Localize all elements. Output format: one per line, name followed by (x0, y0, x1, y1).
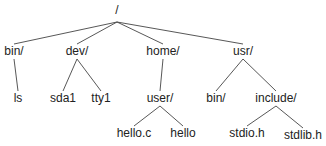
node-sda1: sda1 (50, 91, 76, 105)
node-tty1: tty1 (91, 91, 111, 105)
node-usr: usr/ (233, 44, 254, 58)
node-helloc: hello.c (117, 126, 152, 140)
edge-usr-to-include (243, 59, 276, 91)
edge-root-to-dev (77, 22, 117, 44)
node-stdioh: stdio.h (229, 126, 264, 140)
edge-include-to-stdlibh (276, 106, 303, 128)
edge-bin-to-ls (14, 59, 18, 91)
node-hello: hello (170, 126, 196, 140)
edge-home-to-user (160, 59, 163, 91)
tree-labels: /bin/dev/home/usr/lssda1tty1user/bin/inc… (4, 3, 322, 142)
node-stdlibh: stdlib.h (284, 128, 322, 142)
edge-include-to-stdioh (247, 106, 276, 126)
node-ls: ls (14, 91, 23, 105)
node-user: user/ (147, 91, 174, 105)
edge-usr-to-usrbin (216, 59, 243, 91)
node-dev: dev/ (66, 44, 89, 58)
node-root: / (115, 3, 119, 17)
node-bin: bin/ (4, 44, 24, 58)
edge-root-to-home (117, 22, 163, 44)
edge-dev-to-sda1 (63, 59, 77, 91)
directory-tree-diagram: /bin/dev/home/usr/lssda1tty1user/bin/inc… (0, 0, 326, 146)
edge-user-to-helloc (134, 106, 160, 126)
edge-user-to-hello (160, 106, 183, 126)
edge-root-to-usr (117, 22, 243, 44)
tree-edges (14, 22, 303, 128)
edge-root-to-bin (14, 22, 117, 44)
node-include: include/ (255, 91, 297, 105)
node-home: home/ (146, 44, 180, 58)
node-usrbin: bin/ (206, 91, 226, 105)
edge-dev-to-tty1 (77, 59, 101, 91)
